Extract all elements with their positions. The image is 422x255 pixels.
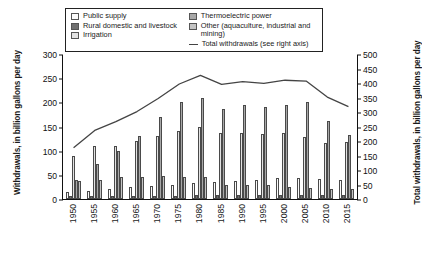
other-swatch xyxy=(189,23,197,30)
x-tick-label: 1995 xyxy=(258,204,268,223)
plot-area: 050100150200250300 050100150200250300350… xyxy=(62,55,358,200)
x-tick-label: 1975 xyxy=(173,204,183,223)
y-tick-label-left: 50 xyxy=(47,171,57,181)
y-tick-label-left: 300 xyxy=(43,50,57,60)
x-tick-label: 1980 xyxy=(194,204,204,223)
x-tick-label: 1970 xyxy=(152,204,162,223)
y-axis-label-right: Total withdrawals, in billion gallons pe… xyxy=(413,28,422,218)
legend-item: Public supply xyxy=(71,12,181,21)
thermoelectric-swatch xyxy=(189,13,197,20)
legend-label: Public supply xyxy=(83,12,127,21)
legend-label: Thermoelectric power xyxy=(201,12,272,21)
x-tick: 1985 xyxy=(210,202,231,252)
x-tick: 1965 xyxy=(125,202,146,252)
x-tick-label: 2010 xyxy=(321,204,331,223)
line-path xyxy=(74,75,349,148)
x-tick: 1950 xyxy=(62,202,83,252)
x-tick: 1975 xyxy=(168,202,189,252)
rural-domestic-swatch xyxy=(71,23,79,30)
legend-item: Other (aquaculture, industrial and minin… xyxy=(189,22,318,39)
public-supply-swatch xyxy=(71,13,79,20)
x-tick: 1960 xyxy=(104,202,125,252)
y-tick-label-right: 500 xyxy=(363,50,377,60)
legend-label: Other (aquaculture, industrial and minin… xyxy=(201,22,318,39)
y-tick-label-right: 50 xyxy=(363,181,373,191)
legend-item: Thermoelectric power xyxy=(189,12,318,21)
y-tick-label-right: 250 xyxy=(363,123,377,133)
legend-label: Total withdrawals (see right axis) xyxy=(202,40,309,49)
irrigation-swatch xyxy=(71,32,79,39)
y-tick-label-left: 200 xyxy=(43,98,57,108)
x-tick: 1970 xyxy=(147,202,168,252)
x-tick: 2010 xyxy=(316,202,337,252)
y-tick-label-left: 0 xyxy=(52,195,57,205)
x-tick: 1955 xyxy=(83,202,104,252)
x-tick-label: 1955 xyxy=(89,204,99,223)
y-axis-label-left: Withdrawals, in billion gallons per day xyxy=(13,33,22,213)
x-tick: 1995 xyxy=(252,202,273,252)
legend-item: Rural domestic and livestock xyxy=(71,22,181,31)
y-tick-label-right: 0 xyxy=(363,195,368,205)
y-tick-label-right: 350 xyxy=(363,94,377,104)
x-tick: 1990 xyxy=(231,202,252,252)
legend-item: Irrigation xyxy=(71,31,181,40)
y-tick-label-right: 150 xyxy=(363,152,377,162)
x-tick-label: 1950 xyxy=(68,204,78,223)
y-tick-label-left: 100 xyxy=(43,147,57,157)
total-line-swatch xyxy=(189,44,198,45)
y-tick-label-left: 150 xyxy=(43,123,57,133)
legend-label: Irrigation xyxy=(83,31,112,40)
total-withdrawals-line xyxy=(63,55,359,200)
x-tick: 2005 xyxy=(295,202,316,252)
y-tick-label-right: 300 xyxy=(363,108,377,118)
y-tick-label-right: 200 xyxy=(363,137,377,147)
y-tick-label-right: 450 xyxy=(363,65,377,75)
x-tick-label: 2015 xyxy=(342,204,352,223)
legend-column-right: Thermoelectric powerOther (aquaculture, … xyxy=(189,12,318,48)
legend-item: Total withdrawals (see right axis) xyxy=(189,40,318,49)
chart-legend: Public supplyRural domestic and livestoc… xyxy=(65,8,323,52)
x-tick: 2015 xyxy=(337,202,358,252)
x-tick: 2000 xyxy=(273,202,294,252)
y-tick-label-right: 400 xyxy=(363,79,377,89)
x-tick-label: 2005 xyxy=(300,204,310,223)
y-tick-label-right: 100 xyxy=(363,166,377,176)
x-tick-label: 2000 xyxy=(279,204,289,223)
x-axis-labels: 1950195519601965197019751980198519901995… xyxy=(62,202,358,252)
x-tick: 1980 xyxy=(189,202,210,252)
x-tick-label: 1965 xyxy=(131,204,141,223)
x-tick-label: 1990 xyxy=(237,204,247,223)
x-tick-label: 1960 xyxy=(110,204,120,223)
y-tick-label-left: 250 xyxy=(43,74,57,84)
legend-column-left: Public supplyRural domestic and livestoc… xyxy=(71,12,181,48)
x-tick-label: 1985 xyxy=(216,204,226,223)
legend-label: Rural domestic and livestock xyxy=(83,22,177,31)
